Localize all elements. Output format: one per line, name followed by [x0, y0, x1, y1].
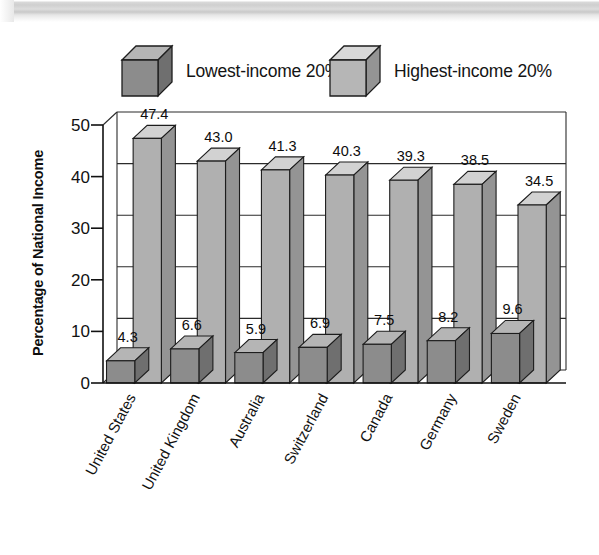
bar-lowest-income: [427, 328, 469, 383]
value-label-lowest-income: 6.6: [182, 317, 202, 333]
category-label: Canada: [356, 390, 396, 445]
y-tick-label: 40: [71, 168, 90, 187]
y-axis-ticks: 50403020100: [71, 116, 103, 393]
value-label-highest-income: 39.3: [397, 148, 425, 164]
category-label: Sweden: [483, 390, 523, 446]
value-label-highest-income: 47.4: [140, 106, 168, 122]
category-label: Australia: [225, 390, 268, 450]
y-tick-label: 20: [71, 271, 90, 290]
value-label-highest-income: 34.5: [525, 173, 553, 189]
category-label: Switzerland: [280, 390, 331, 466]
value-label-lowest-income: 5.9: [246, 321, 266, 337]
plot-area: 50403020100 47.44.343.06.641.35.940.36.9…: [0, 0, 599, 555]
category-label: United Kingdom: [138, 390, 203, 492]
value-label-highest-income: 38.5: [461, 152, 489, 168]
bar-lowest-income: [491, 320, 533, 383]
y-tick-label: 10: [71, 322, 90, 341]
category-label: United States: [82, 390, 139, 478]
bar-lowest-income: [235, 340, 277, 383]
bar-lowest-income: [171, 336, 213, 383]
category-labels-group: United StatesUnited KingdomAustraliaSwit…: [82, 390, 524, 493]
value-label-lowest-income: 8.2: [438, 309, 458, 325]
value-label-lowest-income: 6.9: [310, 315, 330, 331]
y-tick-label: 30: [71, 219, 90, 238]
value-label-highest-income: 43.0: [204, 129, 232, 145]
y-tick-label: 0: [81, 374, 90, 393]
value-label-lowest-income: 7.5: [374, 312, 394, 328]
bar-chart: Lowest-income 20% Highest-income 20% Per…: [0, 0, 599, 555]
value-label-lowest-income: 4.3: [118, 329, 138, 345]
value-label-lowest-income: 9.6: [502, 301, 522, 317]
y-tick-label: 50: [71, 116, 90, 135]
category-label: Germany: [416, 390, 460, 453]
bar-highest-income: [133, 125, 175, 383]
bar-lowest-income: [299, 334, 341, 383]
value-label-highest-income: 41.3: [268, 138, 296, 154]
bar-lowest-income: [363, 331, 405, 383]
value-label-highest-income: 40.3: [333, 143, 361, 159]
